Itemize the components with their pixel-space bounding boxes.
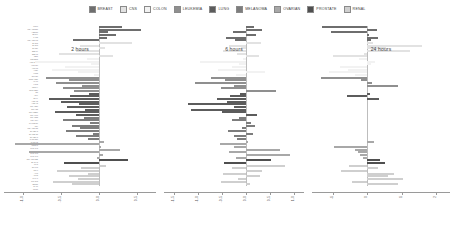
chart-figure: BREASTCNSCOLONLEUKEMIALUNGMELANOMAOVARIA… <box>0 0 454 227</box>
axis-tick <box>174 192 175 195</box>
x-axis-2-hours: -1.0-0.50.00.5 <box>0 192 160 227</box>
axis-tick <box>246 192 247 195</box>
axis-tick-label: 1 <box>400 196 404 198</box>
panel-2-hours: -1.0-0.50.00.5 2 hours <box>0 24 160 227</box>
axis-tick-label: 0 <box>365 196 369 198</box>
chart-legend: BREASTCNSCOLONLEUKEMIALUNGMELANOMAOVARIA… <box>0 6 454 13</box>
legend-swatch-icon <box>209 6 216 13</box>
axis-line <box>4 192 156 193</box>
axis-tick <box>270 192 271 195</box>
axis-tick <box>222 192 223 195</box>
bar-row <box>308 85 454 87</box>
legend-item-breast[interactable]: BREAST <box>89 6 113 13</box>
legend-item-ovarian[interactable]: OVARIAN <box>274 6 300 13</box>
bar[interactable] <box>367 98 379 100</box>
panel-title-2-hours: 2 hours <box>0 46 160 52</box>
x-axis-6-hours: -1.5-1.0-0.50.00.51.0 <box>160 192 308 227</box>
axis-line <box>164 192 304 193</box>
axis-tick-label: 0.0 <box>97 196 101 201</box>
axis-tick-label: 1.0 <box>292 196 296 201</box>
axis-tick <box>436 192 437 195</box>
bar[interactable] <box>246 183 250 185</box>
axis-tick <box>61 192 62 195</box>
bar-row <box>308 141 454 143</box>
legend-item-melanoma[interactable]: MELANOMA <box>236 6 267 13</box>
x-axis-24-hours: -1012 <box>308 192 454 227</box>
legend-item-lung[interactable]: LUNG <box>209 6 229 13</box>
bar[interactable] <box>72 183 99 185</box>
axis-tick-label: -1.5 <box>172 196 176 202</box>
bar[interactable] <box>367 85 398 87</box>
axis-tick <box>23 192 24 195</box>
axis-tick <box>367 192 368 195</box>
panel-24-hours: -1012 24 hours <box>308 24 454 227</box>
axis-tick-label: -1.0 <box>21 196 25 202</box>
bar-row <box>308 183 454 185</box>
legend-swatch-icon <box>307 6 314 13</box>
legend-label: LEUKEMIA <box>183 8 203 12</box>
legend-label: MELANOMA <box>245 8 267 12</box>
legend-item-renal[interactable]: RENAL <box>344 6 366 13</box>
axis-tick <box>198 192 199 195</box>
legend-swatch-icon <box>344 6 351 13</box>
legend-label: OVARIAN <box>283 8 300 12</box>
legend-item-cns[interactable]: CNS <box>120 6 137 13</box>
axis-tick <box>402 192 403 195</box>
legend-swatch-icon <box>174 6 181 13</box>
panel-title-24-hours: 24 hours <box>308 46 454 52</box>
legend-item-prostate[interactable]: PROSTATE <box>307 6 336 13</box>
bar-row <box>160 183 308 185</box>
axis-tick-label: 0.5 <box>268 196 272 201</box>
axis-tick <box>333 192 334 195</box>
bar[interactable] <box>367 183 397 185</box>
axis-tick-label: -1 <box>331 196 335 199</box>
axis-tick <box>99 192 100 195</box>
bar[interactable] <box>367 141 374 143</box>
panel-6-hours: -1.5-1.0-0.50.00.51.0 6 hours <box>160 24 308 227</box>
legend-swatch-icon <box>144 6 151 13</box>
legend-label: BREAST <box>98 8 113 12</box>
axis-tick <box>294 192 295 195</box>
legend-label: LUNG <box>218 8 229 12</box>
legend-item-leukemia[interactable]: LEUKEMIA <box>174 6 203 13</box>
bar-row <box>0 183 160 185</box>
legend-label: PROSTATE <box>316 8 336 12</box>
legend-swatch-icon <box>120 6 127 13</box>
axis-tick-label: 2 <box>434 196 438 198</box>
axis-tick-label: -1.0 <box>196 196 200 202</box>
axis-tick <box>137 192 138 195</box>
legend-label: COLON <box>153 8 167 12</box>
panel-title-6-hours: 6 hours <box>160 46 308 52</box>
axis-tick-label: -0.5 <box>59 196 63 202</box>
bar-row <box>308 98 454 100</box>
legend-swatch-icon <box>89 6 96 13</box>
legend-swatch-icon <box>274 6 281 13</box>
axis-tick-label: -0.5 <box>220 196 224 202</box>
axis-tick-label: 0.0 <box>244 196 248 201</box>
legend-swatch-icon <box>236 6 243 13</box>
chart-panels: -1.0-0.50.00.5 2 hours -1.5-1.0-0.50.00.… <box>0 24 454 227</box>
axis-tick-label: 0.5 <box>135 196 139 201</box>
legend-label: CNS <box>129 8 137 12</box>
legend-item-colon[interactable]: COLON <box>144 6 167 13</box>
legend-label: RENAL <box>353 8 366 12</box>
